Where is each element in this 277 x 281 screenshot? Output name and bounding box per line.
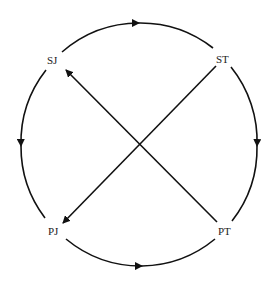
node-label-sj: SJ: [47, 54, 58, 66]
edge-pj-pt: [66, 239, 215, 266]
edge-pt-sj: [66, 70, 217, 222]
cycle-diagram: SJ ST PT PJ: [0, 0, 277, 281]
node-label-pt: PT: [218, 225, 231, 237]
edge-sj-pj: [21, 70, 46, 218]
node-label-st: ST: [216, 53, 229, 65]
edge-st-pt: [231, 67, 257, 221]
node-label-pj: PJ: [48, 225, 59, 237]
edge-sj-st: [62, 23, 213, 52]
